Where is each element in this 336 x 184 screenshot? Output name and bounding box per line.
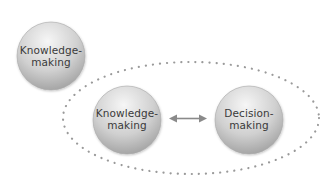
outer-knowledge-making-node: Knowledge- making bbox=[17, 22, 85, 90]
inner-knowledge-making-node: Knowledge- making bbox=[93, 86, 161, 154]
right-node-label-line1: Decision- bbox=[224, 107, 274, 119]
outer-node-label-line2: making bbox=[31, 56, 71, 68]
bidirectional-arrow-icon bbox=[169, 115, 207, 123]
left-node-label-line2: making bbox=[107, 119, 147, 131]
diagram-canvas: Knowledge- making Knowledge- making Deci… bbox=[0, 0, 336, 184]
outer-node-label-line1: Knowledge- bbox=[20, 44, 83, 56]
left-node-label-line1: Knowledge- bbox=[96, 107, 159, 119]
right-node-label-line2: making bbox=[229, 119, 269, 131]
decision-making-node: Decision- making bbox=[215, 86, 283, 154]
